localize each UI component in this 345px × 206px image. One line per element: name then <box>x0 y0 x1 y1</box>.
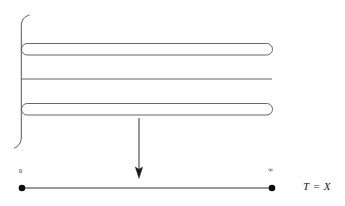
rounded-tube-top <box>22 44 273 56</box>
label-infinity: ∞ <box>268 167 273 174</box>
interval-endpoint-left <box>19 185 26 192</box>
interval-endpoint-right <box>269 185 276 192</box>
diagram-canvas <box>0 0 345 206</box>
rounded-tube-bottom <box>22 104 273 116</box>
label-zero: 0 <box>19 168 22 174</box>
label-equation: T = X <box>303 181 331 192</box>
left-brace-icon <box>15 15 30 148</box>
